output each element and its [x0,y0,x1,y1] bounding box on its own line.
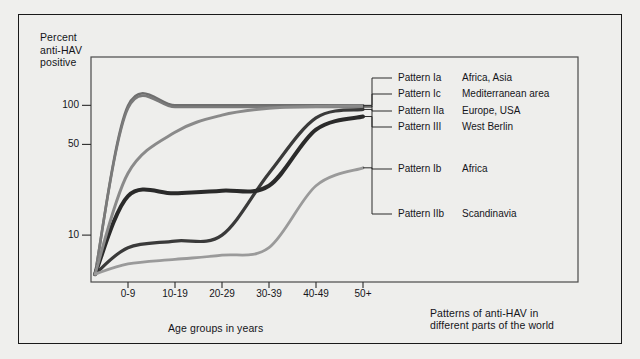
leader-line-pattern-iib [363,168,392,214]
legend-pattern-pattern-iia: Pattern IIa [398,105,444,116]
legend-leader-lines [363,78,392,214]
data-curves [95,93,363,274]
legend-region-pattern-ic: Mediterranean area [462,88,549,99]
legend-region-pattern-ib: Africa [462,163,488,174]
legend-pattern-pattern-ic: Pattern Ic [398,88,441,99]
legend-pattern-pattern-iib: Pattern IIb [398,208,444,219]
legend-pattern-pattern-ia: Pattern Ia [398,72,441,83]
y-tick-label-100: 100 [39,99,79,110]
curve-pattern-iii [95,117,363,275]
legend-pattern-pattern-iii: Pattern III [398,121,441,132]
leader-line-pattern-ib [363,106,392,169]
chart-canvas [0,0,640,359]
axis-ticks [82,105,363,288]
figure-caption: Patterns of anti-HAV in different parts … [430,307,554,332]
legend-region-pattern-iib: Scandinavia [462,208,516,219]
x-tick-label-50+: 50+ [333,288,393,299]
curve-pattern-iib [95,168,363,274]
legend-pattern-pattern-ib: Pattern Ib [398,163,441,174]
y-axis-title: Percent anti-HAV positive [40,31,82,69]
leader-line-pattern-iii [363,117,392,127]
legend-region-pattern-iii: West Berlin [462,121,513,132]
y-tick-label-50: 50 [39,138,79,149]
legend-region-pattern-ia: Africa, Asia [462,72,512,83]
leader-line-pattern-ia [363,78,392,105]
y-tick-label-10: 10 [39,229,79,240]
legend-region-pattern-iia: Europe, USA [462,105,520,116]
x-axis-title: Age groups in years [168,322,263,335]
curve-pattern-ic [95,96,363,275]
leader-line-pattern-iia [363,109,392,111]
